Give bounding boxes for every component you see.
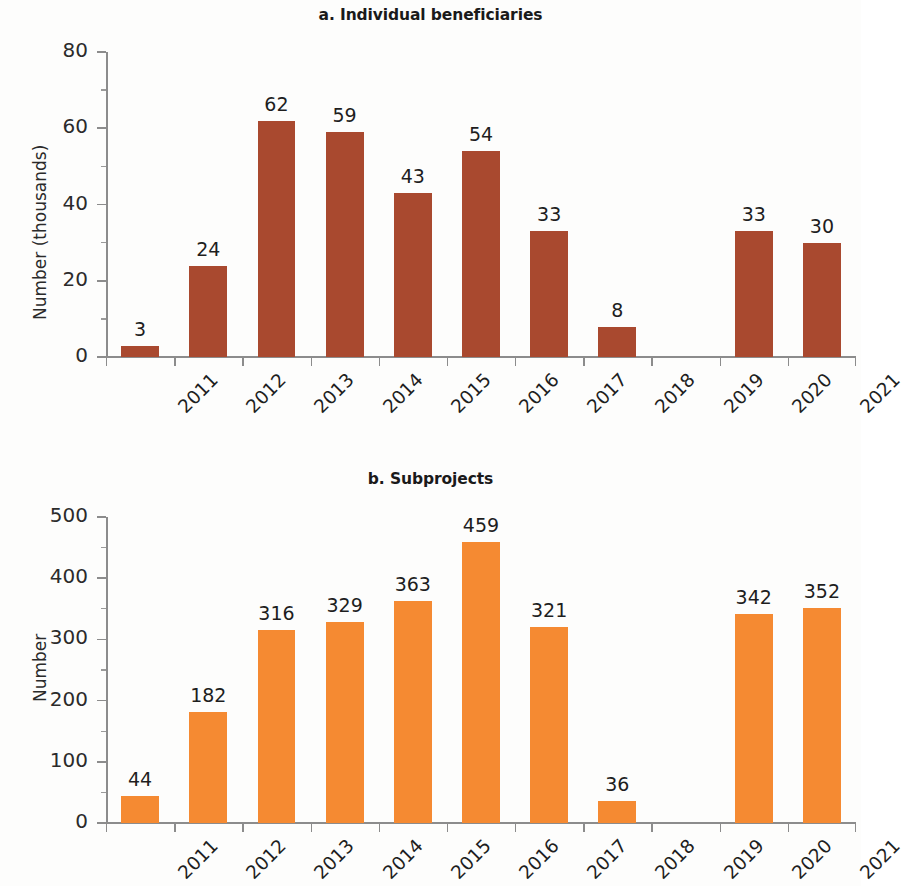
bar-value-label: 182 [163,684,253,706]
y-tick-major [97,761,106,763]
bar-value-label: 24 [163,238,253,260]
x-tick-label: 2011 [174,835,222,883]
bar-value-label: 459 [436,514,526,536]
x-tick-label: 2011 [174,369,222,417]
x-tick [788,824,789,832]
x-tick [788,358,789,366]
y-tick-major [97,700,106,702]
x-tick-label: 2018 [651,835,699,883]
bar [394,601,432,823]
y-tick-minor [101,166,106,167]
bar [258,121,296,357]
x-tick-label: 2020 [788,835,836,883]
y-tick-major [97,356,106,358]
x-tick-label: 2021 [856,835,904,883]
y-tick-minor [101,792,106,793]
y-tick-major [97,127,106,129]
y-tick-minor [101,731,106,732]
bar-value-label: 329 [300,594,390,616]
y-tick-label: 0 [24,809,88,833]
y-tick-label: 80 [24,38,88,62]
y-tick-label: 200 [24,687,88,711]
y-tick-major [97,204,106,206]
y-tick-major [97,516,106,518]
bar [189,712,227,823]
chart-panel-b: b. Subprojects Number 0100200300400500 2… [0,452,861,886]
bar [598,801,636,823]
x-tick [651,824,652,832]
y-tick-label: 500 [24,503,88,527]
x-tick-label: 2013 [310,835,358,883]
bar [394,193,432,357]
bar [530,231,568,357]
bar [326,132,364,357]
x-tick [311,824,312,832]
y-tick-minor [101,608,106,609]
y-tick-minor [101,669,106,670]
x-tick [242,824,243,832]
x-tick [855,824,856,832]
x-tick-label: 2017 [583,369,631,417]
bar-value-label: 3 [95,318,185,340]
bar [735,231,773,357]
bar [462,151,500,357]
y-tick-major [97,639,106,641]
chart-a-title: a. Individual beneficiaries [0,6,861,24]
bar [326,622,364,823]
x-tick [174,824,175,832]
y-tick-minor [101,547,106,548]
x-tick-label: 2018 [651,369,699,417]
x-tick [379,824,380,832]
bar-value-label: 36 [572,773,662,795]
x-tick [855,358,856,366]
bar-value-label: 8 [572,299,662,321]
y-tick-minor [101,242,106,243]
y-tick-label: 300 [24,625,88,649]
chart-panel-a: a. Individual beneficiaries Number (thou… [0,0,861,452]
bar-value-label: 321 [504,599,594,621]
x-tick [447,358,448,366]
x-tick-label: 2014 [378,835,426,883]
bar [803,243,841,357]
x-tick-label: 2012 [242,369,290,417]
bar [121,346,159,357]
y-tick-label: 60 [24,114,88,138]
y-tick-label: 0 [24,343,88,367]
x-tick [583,824,584,832]
bar-value-label: 59 [300,104,390,126]
x-tick-label: 2020 [788,369,836,417]
x-tick-label: 2016 [515,369,563,417]
y-tick-label: 100 [24,748,88,772]
y-tick-major [97,51,106,53]
y-tick-label: 20 [24,267,88,291]
y-tick-major [97,280,106,282]
x-tick [311,358,312,366]
chart-b-title: b. Subprojects [0,470,861,488]
x-tick [106,358,107,366]
y-tick-label: 400 [24,564,88,588]
x-tick-label: 2015 [447,369,495,417]
x-tick-label: 2016 [515,835,563,883]
x-tick-label: 2014 [378,369,426,417]
x-tick [651,358,652,366]
bar-value-label: 33 [504,203,594,225]
x-tick-label: 2012 [242,835,290,883]
y-tick-label: 40 [24,191,88,215]
x-tick [720,358,721,366]
x-tick [515,824,516,832]
x-tick-label: 2017 [583,835,631,883]
chart-a-y-axis-title: Number (thousands) [30,145,50,320]
x-tick [720,824,721,832]
x-tick [515,358,516,366]
x-tick-label: 2013 [310,369,358,417]
y-tick-minor [101,89,106,90]
x-tick-label: 2019 [719,835,767,883]
chart-b-plot-area [106,517,856,823]
x-tick [447,824,448,832]
bar [598,327,636,358]
y-tick-major [97,577,106,579]
bar [803,608,841,823]
x-tick [174,358,175,366]
x-tick-label: 2015 [447,835,495,883]
